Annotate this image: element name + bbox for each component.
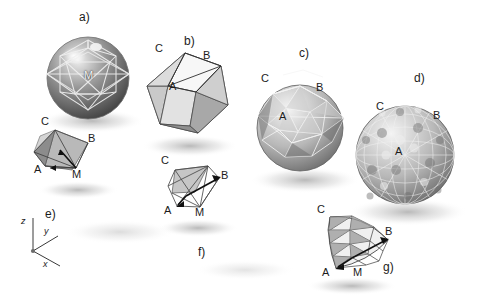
- axis-label-x: x: [43, 260, 48, 269]
- axis-origin-dot: [31, 249, 35, 253]
- panel-b-vertex-C: C: [155, 43, 163, 54]
- panel-label-d: d): [414, 72, 425, 84]
- panel-b-icosahedron: [147, 53, 228, 133]
- panel-label-g: g): [383, 261, 394, 273]
- panel-a-wedge: [34, 130, 88, 171]
- axis-label-z: z: [21, 217, 26, 226]
- panel-label-c: c): [299, 47, 309, 59]
- panel-label-b: b): [184, 35, 195, 47]
- panel-c-vertex-A: A: [279, 111, 286, 122]
- panel-g-vertex-C: C: [317, 204, 325, 215]
- panel-d-vertex-A: A: [395, 146, 402, 157]
- wedge-a-vertex-M: M: [72, 169, 81, 180]
- panel-f-vertex-A: A: [164, 205, 171, 216]
- panel-a-vertex-M: M: [84, 70, 93, 81]
- wedge-a-vertex-B: B: [88, 133, 95, 144]
- panel-g-vertex-M: M: [353, 267, 362, 278]
- panel-g-vertex-A: A: [322, 267, 329, 278]
- panel-f-vertex-M: M: [195, 207, 204, 218]
- panel-f-vertex-C: C: [161, 155, 169, 166]
- panel-label-f: f): [198, 246, 205, 258]
- panel-b-vertex-A: A: [169, 81, 176, 92]
- figure-canvas: [0, 0, 478, 295]
- panel-c-vertex-B: B: [316, 82, 323, 93]
- wedge-a-vertex-C: C: [41, 116, 49, 127]
- panel-f-wireframe-wedge: [168, 166, 221, 207]
- panel-label-e: e): [45, 208, 56, 220]
- panel-f-vertex-B: B: [221, 170, 228, 181]
- panel-c-vertex-C: C: [261, 73, 269, 84]
- panel-g-vertex-B: B: [385, 226, 392, 237]
- panel-d-vertex-C: C: [376, 101, 384, 112]
- panel-label-a: a): [79, 11, 90, 23]
- axis-label-y: y: [44, 227, 49, 236]
- axis-y-line: [33, 236, 58, 251]
- panel-c-subdivided-sphere: [257, 70, 344, 171]
- panel-d-vertex-B: B: [433, 110, 440, 121]
- panel-b-vertex-B: B: [203, 50, 210, 61]
- wedge-a-vertex-A: A: [34, 164, 41, 175]
- geodesic-subdivision-figure: a) M b) C B A c) C B A d) C B A C B A M …: [0, 0, 478, 295]
